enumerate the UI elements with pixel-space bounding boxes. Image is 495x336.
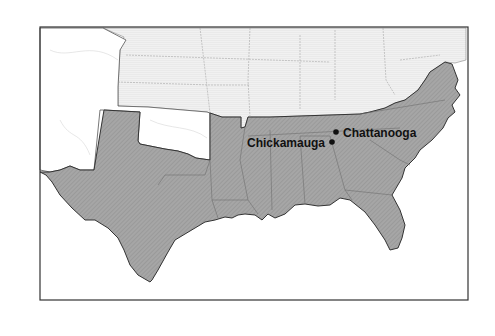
place-chickamauga: Chickamauga [247,136,335,150]
chickamauga-marker-icon [329,139,335,145]
chickamauga-label: Chickamauga [247,136,325,150]
civil-war-map: Chattanooga Chickamauga [0,0,495,336]
chattanooga-label: Chattanooga [343,126,417,140]
place-chattanooga: Chattanooga [333,126,416,140]
chattanooga-marker-icon [333,129,339,135]
